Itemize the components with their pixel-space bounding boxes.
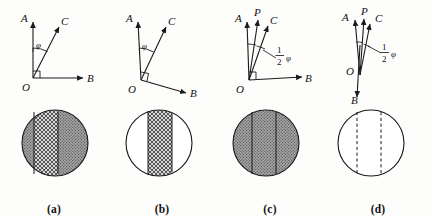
label-vector-p: P <box>253 6 261 18</box>
label-vector-c: C <box>375 12 383 24</box>
angle-leader-line <box>263 50 276 58</box>
vector-diagram-c: 1 2 φ A P C B O <box>216 0 324 106</box>
label-angle-numerator: 1 <box>277 45 282 55</box>
circle-diagram-c <box>216 106 324 188</box>
label-angle-denominator: 2 <box>382 54 387 64</box>
vector-diagram-d: 1 2 φ A P C O B <box>324 0 432 106</box>
angle-leader-line <box>368 46 381 53</box>
label-angle-phi: φ <box>391 49 396 59</box>
label-angle-numerator: 1 <box>382 42 387 52</box>
label-vector-b: B <box>305 72 312 84</box>
label-vector-c: C <box>61 15 69 27</box>
panel-caption-d: (d) <box>324 203 432 215</box>
label-angle-phi: φ <box>36 40 41 50</box>
label-origin-o: O <box>22 81 30 93</box>
label-vector-c: C <box>270 14 278 26</box>
vector-b-arrow <box>141 80 186 93</box>
vector-c-arrow <box>141 27 166 80</box>
label-angle-denominator: 2 <box>277 57 282 67</box>
circle-diagram-d <box>324 106 432 188</box>
label-vector-a: A <box>20 12 28 24</box>
panel-d: 1 2 φ A P C O B (d) <box>324 0 432 217</box>
vector-diagram-a: A C B O φ <box>0 0 108 106</box>
vector-diagram-b: A C B O φ <box>108 0 216 106</box>
label-vector-p: P <box>360 5 368 17</box>
label-vector-b: B <box>351 94 358 106</box>
figure-root: A C B O φ <box>0 0 432 217</box>
label-origin-o: O <box>346 65 354 77</box>
label-vector-a: A <box>234 12 242 24</box>
panel-c: 1 2 φ A P C B O (c) <box>216 0 324 217</box>
vector-c-arrow <box>33 27 59 78</box>
label-vector-a: A <box>125 12 133 24</box>
panel-a: A C B O φ <box>0 0 108 217</box>
label-angle-phi: φ <box>286 53 291 63</box>
label-origin-o: O <box>236 83 244 95</box>
label-vector-b: B <box>190 87 197 99</box>
panel-b: A C B O φ (b) <box>108 0 216 217</box>
label-angle-phi: φ <box>142 41 147 51</box>
label-vector-b: B <box>87 72 94 84</box>
label-vector-c: C <box>168 15 176 27</box>
circle-diagram-b <box>108 106 216 188</box>
vector-p-arrow <box>249 20 258 80</box>
vector-a-arrow <box>247 22 249 80</box>
vector-b-arrow <box>249 77 302 80</box>
label-vector-a: A <box>341 11 349 23</box>
label-origin-o: O <box>128 83 136 95</box>
circle-diagram-a <box>0 106 108 188</box>
